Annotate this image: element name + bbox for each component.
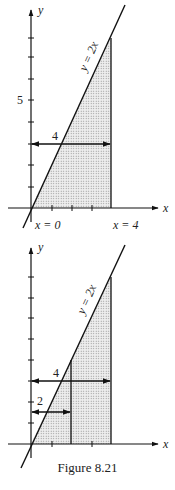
- right-bound-label: x = 4: [112, 218, 138, 232]
- x-axis-label: x: [162, 201, 169, 215]
- y-axis-label: y: [37, 3, 44, 17]
- top-panel: y x 5 4 x = 0 x = 4 y = 2x: [8, 3, 169, 232]
- figure-caption: Figure 8.21: [0, 460, 175, 476]
- bottom-panel: y x 4 2 y = 2x: [8, 240, 169, 468]
- x-axis-label: x: [162, 437, 169, 451]
- arrow-long-label: 4: [53, 366, 59, 380]
- figure-canvas: y x 5 4 x = 0 x = 4 y = 2x y: [0, 0, 175, 490]
- arrow-short-label: 2: [37, 394, 43, 408]
- arrow-label: 4: [52, 129, 58, 143]
- left-bound-label: x = 0: [34, 218, 60, 232]
- y-tick-label-5: 5: [17, 93, 23, 107]
- y-axis-label: y: [37, 240, 44, 254]
